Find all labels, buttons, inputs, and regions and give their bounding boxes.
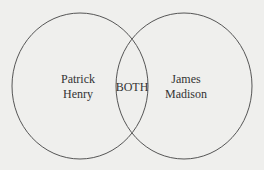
left-set-label-line2: Henry	[38, 87, 118, 102]
right-set-label: James Madison	[146, 72, 226, 102]
right-set-label-line1: James	[146, 72, 226, 87]
right-set-label-line2: Madison	[146, 87, 226, 102]
left-set-label: Patrick Henry	[38, 72, 118, 102]
venn-diagram: Patrick Henry BOTH James Madison	[0, 0, 264, 170]
left-set-label-line1: Patrick	[38, 72, 118, 87]
